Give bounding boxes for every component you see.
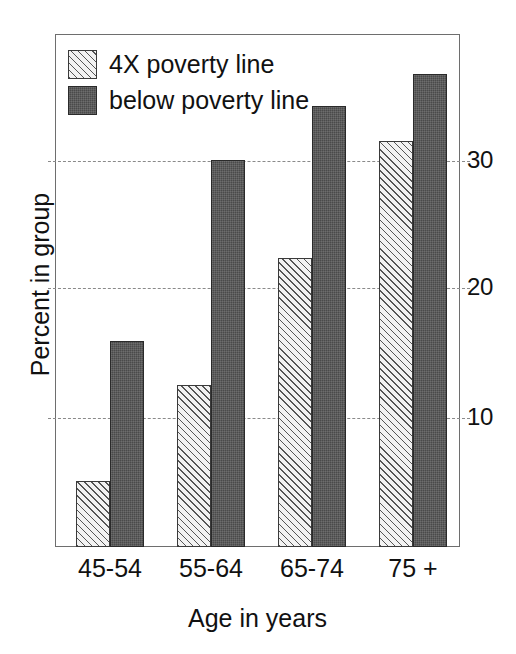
bar-75-plus-below-poverty-line: [413, 74, 447, 547]
legend-label-below-poverty-line: below poverty line: [109, 88, 309, 113]
ytick-label-10: 10: [467, 405, 493, 429]
bar-65-74-below-poverty-line: [312, 106, 346, 547]
legend-item-below-poverty-line: below poverty line: [68, 82, 309, 118]
ytick-label-20: 20: [467, 275, 493, 299]
bar-45-54-4x-poverty-line: [76, 481, 110, 547]
bar-55-64-4x-poverty-line: [177, 385, 211, 547]
bar-55-64-below-poverty-line: [211, 160, 245, 547]
legend-label-4x-poverty-line: 4X poverty line: [109, 52, 274, 77]
y-axis-title: Percent in group: [26, 175, 55, 395]
x-axis-title: Age in years: [55, 604, 460, 633]
chart-legend: 4X poverty line below poverty line: [68, 46, 309, 118]
chart-figure: 30 20 10 Percent in group 45-54 55-64 65…: [0, 0, 516, 654]
bar-65-74-4x-poverty-line: [278, 258, 312, 547]
legend-item-4x-poverty-line: 4X poverty line: [68, 46, 309, 82]
bar-45-54-below-poverty-line: [110, 341, 144, 547]
ytick-label-30: 30: [467, 148, 493, 172]
legend-swatch-solid-icon: [68, 86, 97, 115]
xtick-label-75-plus: 75 +: [353, 556, 473, 581]
bar-75-plus-4x-poverty-line: [379, 141, 413, 547]
legend-swatch-hatched-icon: [68, 50, 97, 79]
